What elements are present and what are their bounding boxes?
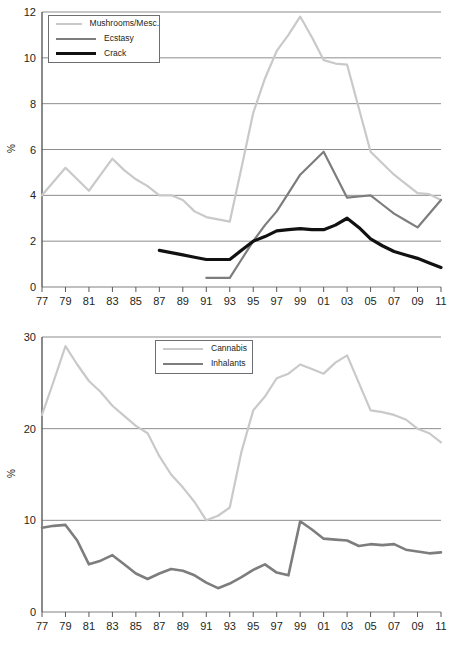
data-series-line	[42, 521, 441, 588]
y-tick-label: 2	[12, 236, 36, 246]
y-tick-label: 0	[12, 282, 36, 292]
x-tick-label: 91	[195, 296, 217, 307]
x-tick-label: 85	[125, 621, 147, 632]
legend-swatch	[163, 363, 203, 365]
x-tick-label: 05	[360, 296, 382, 307]
legend-label: Inhalants	[211, 359, 246, 368]
x-tick-label: 09	[407, 296, 429, 307]
x-tick-label: 97	[266, 621, 288, 632]
legend-swatch	[56, 23, 82, 25]
legend-swatch	[163, 348, 203, 350]
x-tick-label: 09	[407, 621, 429, 632]
x-tick-label: 07	[383, 296, 405, 307]
x-tick-label: 87	[148, 296, 170, 307]
legend-label: Crack	[104, 49, 126, 58]
legend-item: Inhalants	[156, 356, 252, 371]
x-tick-label: 05	[360, 621, 382, 632]
legend-item: Mushrooms/Mesc.	[49, 16, 159, 31]
x-tick-label: 77	[31, 296, 53, 307]
x-tick-label: 95	[242, 621, 264, 632]
x-tick-label: 89	[172, 296, 194, 307]
legend-swatch	[56, 52, 96, 55]
x-tick-label: 77	[31, 621, 53, 632]
x-tick-label: 79	[54, 621, 76, 632]
x-tick-label: 11	[430, 296, 451, 307]
line-chart-bottom	[42, 337, 441, 612]
x-tick-label: 81	[78, 296, 100, 307]
y-tick-label: 10	[12, 53, 36, 63]
chart-panel-bottom: % 0102030 777981838587899193959799010305…	[0, 325, 451, 645]
x-tick-label: 93	[219, 621, 241, 632]
x-tick-label: 81	[78, 621, 100, 632]
x-tick-label: 85	[125, 296, 147, 307]
y-tick-label: 6	[12, 145, 36, 155]
y-tick-label: 4	[12, 190, 36, 200]
chart-panel-top: % 024681012 7779818385878991939597990103…	[0, 0, 451, 320]
x-tick-label: 01	[313, 621, 335, 632]
y-tick-label: 10	[12, 515, 36, 525]
x-tick-label: 11	[430, 621, 451, 632]
x-tick-label: 89	[172, 621, 194, 632]
x-tick-label: 01	[313, 296, 335, 307]
legend-item: Ecstasy	[49, 31, 159, 46]
x-tick-label: 99	[289, 296, 311, 307]
x-tick-label: 03	[336, 621, 358, 632]
legend-item: Cannabis	[156, 341, 252, 356]
legend-bottom: CannabisInhalants	[155, 340, 253, 374]
y-axis-title-bottom: %	[6, 463, 17, 485]
x-tick-label: 87	[148, 621, 170, 632]
data-series-line	[159, 218, 441, 267]
x-tick-label: 83	[101, 621, 123, 632]
legend-swatch	[56, 38, 96, 40]
y-tick-label: 12	[12, 7, 36, 17]
x-tick-label: 97	[266, 296, 288, 307]
legend-label: Mushrooms/Mesc.	[90, 19, 159, 28]
x-tick-label: 79	[54, 296, 76, 307]
y-tick-label: 20	[12, 424, 36, 434]
plot-area-bottom	[42, 337, 441, 612]
x-tick-label: 83	[101, 296, 123, 307]
x-tick-label: 95	[242, 296, 264, 307]
x-tick-label: 99	[289, 621, 311, 632]
legend-top: Mushrooms/Mesc.EcstasyCrack	[48, 15, 160, 63]
x-tick-label: 91	[195, 621, 217, 632]
figure-root: % 024681012 7779818385878991939597990103…	[0, 0, 451, 645]
y-tick-label: 8	[12, 99, 36, 109]
legend-label: Ecstasy	[104, 34, 134, 43]
legend-item: Crack	[49, 46, 159, 61]
y-tick-label: 0	[12, 607, 36, 617]
legend-label: Cannabis	[211, 344, 247, 353]
x-tick-label: 93	[219, 296, 241, 307]
y-tick-label: 30	[12, 332, 36, 342]
x-tick-label: 03	[336, 296, 358, 307]
x-tick-label: 07	[383, 621, 405, 632]
